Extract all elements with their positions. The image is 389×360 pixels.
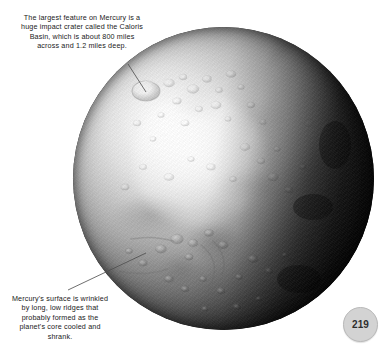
mercury-planet-figure	[73, 27, 374, 330]
textbook-page: The largest feature on Mercury is a huge…	[0, 0, 389, 360]
planet-limb-darkening	[73, 27, 374, 330]
callout-caloris-basin: The largest feature on Mercury is a huge…	[18, 13, 146, 51]
callout-wrinkle-ridges: Mercury's surface is wrinkled by long, l…	[8, 294, 112, 341]
page-number-badge: 219	[343, 307, 378, 342]
page-number-text: 219	[352, 319, 369, 330]
mercury-disc	[73, 27, 374, 330]
